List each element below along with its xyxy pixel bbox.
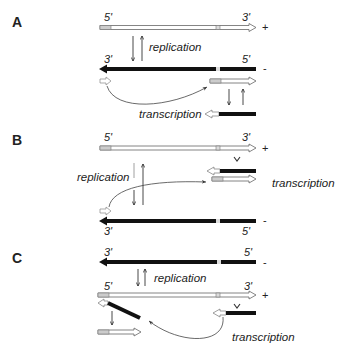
short-minus-strand-c bbox=[213, 309, 256, 317]
promoter-marker bbox=[100, 26, 111, 30]
minus-strand-b bbox=[99, 217, 256, 226]
site-marker bbox=[216, 26, 220, 30]
replication-label: replication bbox=[154, 272, 206, 284]
plus-strand-b bbox=[100, 144, 256, 152]
five-prime-label: 5' bbox=[242, 53, 251, 65]
three-prime-label: 3' bbox=[104, 53, 113, 65]
panel-label-b: B bbox=[12, 132, 22, 148]
minus-strand-c bbox=[99, 258, 256, 267]
plus-sign: + bbox=[262, 289, 268, 301]
curved-arrow-icon bbox=[107, 86, 207, 104]
panel-label-c: C bbox=[12, 250, 22, 266]
minus-sign: - bbox=[263, 62, 267, 74]
replication-transcription-diagram: A 5' 3' + replication 3' 5' - bbox=[0, 0, 343, 350]
short-minus-strand-a bbox=[205, 110, 256, 118]
minus-sign: - bbox=[263, 256, 267, 268]
panel-b: B 5' 3' + transcription replication bbox=[12, 131, 335, 237]
plus-sign: + bbox=[262, 21, 268, 33]
transcript-b bbox=[212, 175, 256, 183]
minus-sign: - bbox=[263, 214, 267, 226]
transcription-label: transcription bbox=[272, 177, 335, 189]
plus-strand-a bbox=[100, 24, 256, 32]
five-prime-label: 5' bbox=[104, 11, 113, 23]
three-prime-label: 3' bbox=[242, 131, 251, 143]
replication-label: replication bbox=[149, 41, 201, 53]
three-prime-label: 3' bbox=[242, 11, 251, 23]
five-prime-label: 5' bbox=[104, 131, 113, 143]
short-minus-strand-b bbox=[207, 167, 256, 175]
chevron-down-icon bbox=[234, 304, 240, 308]
diagonal-strand-c bbox=[98, 299, 140, 318]
transcript-c bbox=[98, 328, 141, 336]
panel-c: C 3' 5' - replication 5' 3' + bbox=[12, 246, 295, 343]
three-prime-label: 3' bbox=[104, 225, 113, 237]
five-prime-label: 5' bbox=[104, 280, 113, 292]
transcript-a bbox=[210, 77, 256, 85]
curved-arrow-icon bbox=[149, 317, 223, 339]
short-transcript-arrow bbox=[100, 77, 111, 85]
five-prime-label: 5' bbox=[244, 246, 253, 258]
transcription-label: transcription bbox=[232, 331, 295, 343]
chevron-down-icon bbox=[234, 157, 240, 161]
short-transcript-arrow bbox=[100, 207, 111, 215]
minus-strand-a bbox=[99, 65, 256, 74]
panel-label-a: A bbox=[12, 14, 22, 30]
site-marker bbox=[216, 67, 220, 71]
plus-sign: + bbox=[262, 142, 268, 154]
three-prime-label: 3' bbox=[244, 280, 253, 292]
transcription-label: transcription bbox=[139, 108, 202, 120]
replication-label: replication bbox=[77, 171, 129, 183]
three-prime-label: 3' bbox=[104, 246, 113, 258]
five-prime-label: 5' bbox=[242, 225, 251, 237]
curved-arrow-icon bbox=[109, 182, 206, 207]
panel-a: A 5' 3' + replication 3' 5' - bbox=[12, 11, 268, 120]
plus-strand-c bbox=[98, 291, 256, 299]
